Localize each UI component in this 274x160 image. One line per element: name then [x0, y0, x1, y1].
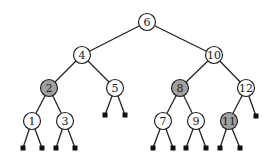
tree-edge: [147, 22, 214, 55]
tree-node-8: 8: [172, 80, 189, 97]
tree-node-12: 12: [238, 80, 255, 97]
nil-leaf-square-icon: [40, 146, 45, 151]
node-label: 10: [207, 49, 221, 62]
tree-node-2: 2: [41, 80, 58, 97]
tree-node-9: 9: [188, 113, 205, 130]
node-label: 2: [46, 82, 53, 95]
node-label: 4: [79, 49, 86, 62]
edges-group: [23, 22, 256, 148]
nil-leaf-square-icon: [218, 146, 223, 151]
tree-node-11: 11: [221, 113, 238, 130]
node-label: 11: [222, 115, 236, 128]
nil-leaf-square-icon: [204, 146, 209, 151]
tree-node-10: 10: [206, 47, 223, 64]
nil-leaf-square-icon: [103, 113, 108, 118]
nil-leaf-square-icon: [123, 113, 128, 118]
tree-node-4: 4: [74, 47, 91, 64]
node-label: 3: [62, 115, 69, 128]
node-label: 9: [193, 115, 200, 128]
node-label: 6: [144, 16, 151, 29]
tree-node-3: 3: [57, 113, 74, 130]
nil-leaf-square-icon: [151, 146, 156, 151]
tree-canvas: 641025812137911: [0, 0, 274, 160]
tree-edge: [82, 22, 147, 55]
node-label: 5: [112, 82, 119, 95]
nil-leaf-square-icon: [171, 146, 176, 151]
tree-diagram: 641025812137911: [0, 0, 274, 160]
node-label: 8: [177, 82, 184, 95]
nil-leaf-square-icon: [238, 146, 243, 151]
node-label: 12: [239, 82, 253, 95]
tree-node-1: 1: [24, 113, 41, 130]
node-label: 7: [160, 115, 167, 128]
tree-node-6: 6: [139, 14, 156, 31]
nil-leaf-square-icon: [54, 146, 59, 151]
nil-leaf-square-icon: [73, 146, 78, 151]
nil-leaf-square-icon: [21, 146, 26, 151]
tree-node-7: 7: [155, 113, 172, 130]
tree-node-5: 5: [107, 80, 124, 97]
nil-leaf-square-icon: [254, 114, 259, 119]
node-label: 1: [29, 115, 36, 128]
nodes-group: 641025812137911: [24, 14, 255, 130]
nil-leaf-square-icon: [184, 146, 189, 151]
